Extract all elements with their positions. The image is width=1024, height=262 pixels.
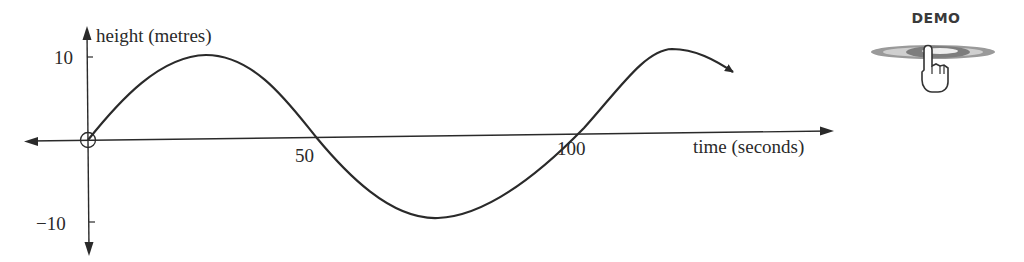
y-axis-label: height (metres): [96, 25, 212, 47]
x-tick-label-100: 100: [557, 138, 586, 159]
x-axis-right-arrow-icon: [820, 127, 834, 136]
pointing-hand-icon: [868, 8, 998, 98]
y-tick-label-neg10: −10: [36, 213, 66, 234]
x-tick-label-50: 50: [295, 145, 314, 166]
x-axis-label: time (seconds): [693, 136, 804, 158]
y-axis: [87, 32, 89, 250]
y-tick-label-10: 10: [54, 47, 73, 68]
y-axis-down-arrow-icon: [85, 242, 94, 256]
x-axis-left-arrow-icon: [24, 137, 38, 146]
y-axis-up-arrow-icon: [83, 26, 92, 40]
demo-badge[interactable]: DEMO: [876, 8, 1006, 98]
